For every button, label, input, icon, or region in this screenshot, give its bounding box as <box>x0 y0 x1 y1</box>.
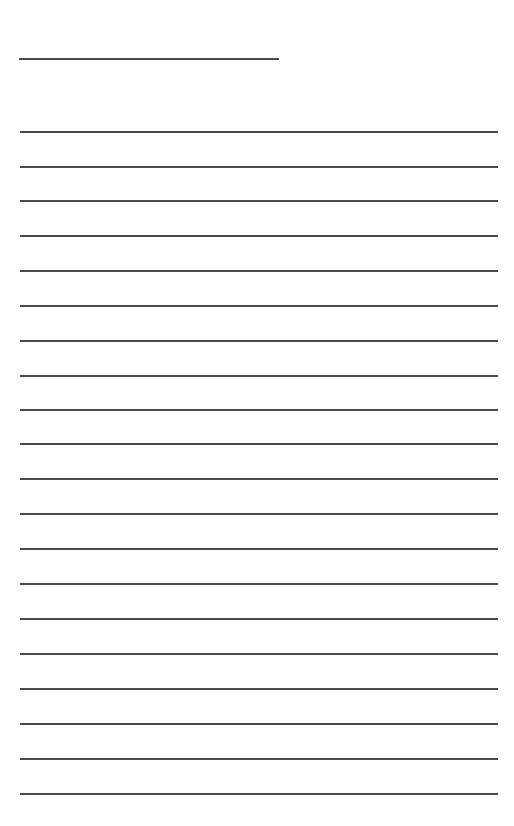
writing-line <box>20 723 498 725</box>
writing-line <box>20 131 498 133</box>
writing-line <box>20 235 498 237</box>
writing-line <box>20 793 498 795</box>
writing-line <box>20 270 498 272</box>
writing-line <box>20 653 498 655</box>
writing-line <box>20 618 498 620</box>
writing-line <box>20 443 498 445</box>
writing-line <box>20 200 498 202</box>
writing-line <box>20 166 498 168</box>
title-line <box>19 58 279 60</box>
writing-line <box>20 305 498 307</box>
writing-line <box>20 409 498 411</box>
writing-line <box>20 478 498 480</box>
writing-line <box>20 375 498 377</box>
writing-line <box>20 583 498 585</box>
writing-line <box>20 513 498 515</box>
writing-line <box>20 688 498 690</box>
writing-line <box>20 340 498 342</box>
lined-page <box>0 0 514 826</box>
writing-line <box>20 758 498 760</box>
writing-line <box>20 548 498 550</box>
